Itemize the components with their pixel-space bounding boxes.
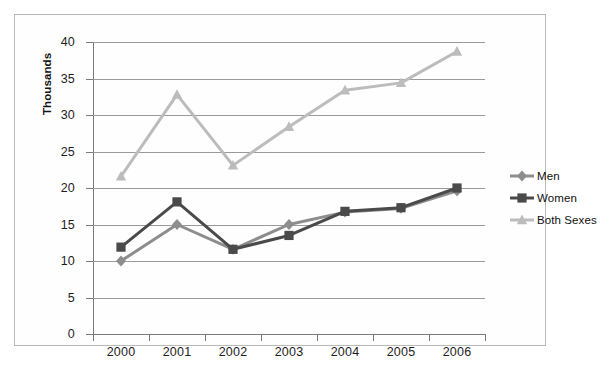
legend-triangle-marker-icon bbox=[509, 213, 535, 227]
x-axis-label: 2002 bbox=[203, 345, 263, 359]
legend-item-label: Women bbox=[535, 192, 577, 204]
legend-square-marker-icon bbox=[509, 191, 535, 205]
x-axis-tick bbox=[485, 334, 486, 341]
x-axis-tick bbox=[373, 334, 374, 341]
legend-diamond-marker-icon bbox=[509, 169, 535, 183]
y-axis-tick bbox=[86, 261, 93, 262]
y-axis-label: 10 bbox=[29, 254, 75, 268]
y-axis-tick bbox=[86, 79, 93, 80]
legend-item-label: Both Sexes bbox=[535, 214, 597, 226]
y-axis-tick bbox=[86, 225, 93, 226]
gridline bbox=[93, 115, 485, 116]
y-axis-label: 15 bbox=[29, 218, 75, 232]
gridline bbox=[93, 152, 485, 153]
gridline bbox=[93, 42, 485, 43]
x-axis-tick bbox=[317, 334, 318, 341]
chart-plot-wrapper: Thousands 0510152025303540 2000200120022… bbox=[15, 15, 545, 345]
y-axis-label: 0 bbox=[29, 327, 75, 341]
y-axis-tick bbox=[86, 188, 93, 189]
x-axis-label: 2005 bbox=[371, 345, 431, 359]
chart-frame: Thousands 0510152025303540 2000200120022… bbox=[14, 14, 546, 346]
x-axis-label: 2004 bbox=[315, 345, 375, 359]
x-axis-tick bbox=[93, 334, 94, 341]
legend-item-men[interactable]: Men bbox=[509, 165, 601, 187]
x-axis-label: 2001 bbox=[147, 345, 207, 359]
y-axis-tick bbox=[86, 115, 93, 116]
x-axis-tick bbox=[261, 334, 262, 341]
y-axis-tick bbox=[86, 152, 93, 153]
y-axis-label: 35 bbox=[29, 72, 75, 86]
gridline bbox=[93, 225, 485, 226]
legend-item-women[interactable]: Women bbox=[509, 187, 601, 209]
y-axis-label: 5 bbox=[29, 291, 75, 305]
x-axis-label: 2000 bbox=[91, 345, 151, 359]
x-axis-line bbox=[93, 334, 485, 335]
legend-item-label: Men bbox=[535, 170, 560, 182]
x-axis-label: 2006 bbox=[427, 345, 487, 359]
y-axis-label: 40 bbox=[29, 35, 75, 49]
y-axis-label: 25 bbox=[29, 145, 75, 159]
x-axis-tick bbox=[429, 334, 430, 341]
legend-item-both-sexes[interactable]: Both Sexes bbox=[509, 209, 601, 231]
gridline bbox=[93, 188, 485, 189]
gridline bbox=[93, 261, 485, 262]
x-axis-label: 2003 bbox=[259, 345, 319, 359]
gridline bbox=[93, 79, 485, 80]
x-axis-tick bbox=[205, 334, 206, 341]
x-axis-tick bbox=[149, 334, 150, 341]
plot-area bbox=[93, 42, 485, 334]
y-axis-tick bbox=[86, 298, 93, 299]
y-axis-tick bbox=[86, 334, 93, 335]
chart-legend: MenWomenBoth Sexes bbox=[509, 165, 601, 231]
y-axis-tick bbox=[86, 42, 93, 43]
y-axis-label: 20 bbox=[29, 181, 75, 195]
gridline bbox=[93, 298, 485, 299]
y-axis-label: 30 bbox=[29, 108, 75, 122]
